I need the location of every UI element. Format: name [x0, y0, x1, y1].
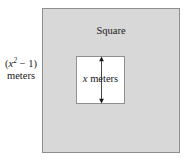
inner-dimension-label: x meters	[76, 73, 125, 85]
square-diagram: (x2 − 1) meters Square x meters	[0, 0, 192, 164]
outer-dimension-unit: meters	[0, 70, 42, 82]
outer-dimension-expression: (x2 − 1)	[0, 58, 42, 70]
inner-dimension-unit: meters	[88, 73, 119, 84]
square-title-label: Square	[42, 25, 180, 37]
minus-one-paren-close: − 1)	[17, 58, 37, 69]
outer-dimension-label: (x2 − 1) meters	[0, 58, 42, 82]
